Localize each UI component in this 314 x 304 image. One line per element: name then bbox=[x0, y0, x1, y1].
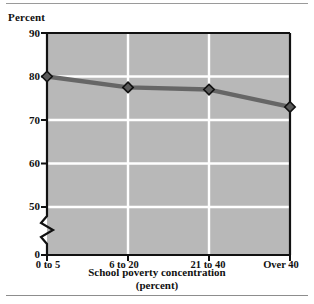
x-axis-title-line2: (percent) bbox=[0, 279, 314, 292]
plot-background bbox=[47, 33, 290, 255]
y-tick-label-70: 70 bbox=[14, 115, 40, 126]
chart-figure: Percent 90 80 70 60 50 0 0 to 5 6 to 20 … bbox=[0, 0, 314, 304]
y-tick-label-90: 90 bbox=[14, 28, 40, 39]
bottom-divider-rule bbox=[6, 295, 308, 296]
y-tick-label-80: 80 bbox=[14, 71, 40, 82]
x-axis-title: School poverty concentration (percent) bbox=[0, 266, 314, 292]
y-tick-label-50: 50 bbox=[14, 201, 40, 212]
y-tick-label-60: 60 bbox=[14, 158, 40, 169]
x-axis-title-line1: School poverty concentration bbox=[88, 266, 225, 278]
